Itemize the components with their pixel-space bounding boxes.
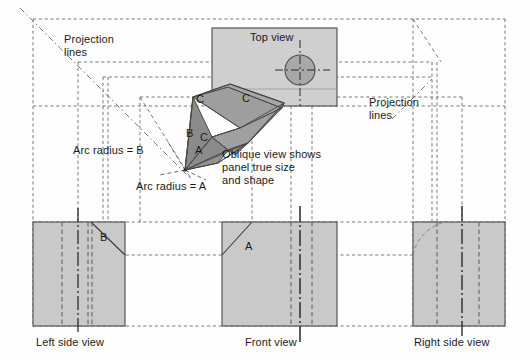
oblique-label-c-inner: C [200, 131, 208, 143]
front-view-group [222, 206, 337, 342]
left-side-view-panel [33, 222, 125, 326]
arc-radius-b-label: Arc radius = B [73, 144, 144, 157]
front-view-label: Front view [245, 336, 297, 349]
right-side-view-panel [413, 222, 505, 326]
top-view-label: Top view [250, 31, 294, 44]
arc-radius-a-label: Arc radius = A [136, 180, 206, 193]
projection-lines-label-right: Projection lines [369, 96, 419, 122]
mitre-line-left-branch [140, 97, 192, 180]
left-side-view-label: Left side view [36, 336, 104, 349]
left-side-view-label-b: B [100, 231, 107, 243]
right-side-view-group [413, 206, 505, 338]
oblique-label-a: A [195, 144, 202, 156]
right-side-view-label: Right side view [414, 336, 489, 349]
oblique-label-c-top: C [242, 92, 250, 104]
front-view-label-a: A [245, 240, 252, 252]
arc-radius-a-leader [185, 170, 206, 180]
mitre-line-right-upper [413, 19, 441, 62]
oblique-apex-point [183, 168, 186, 171]
oblique-note-label: Oblique view shows panel true size and s… [222, 148, 321, 187]
front-view-panel [222, 222, 337, 326]
oblique-label-b: B [186, 127, 193, 139]
projection-lines-label-left: Projection lines [64, 33, 114, 59]
technical-drawing-canvas: Projection lines Projection lines Top vi… [0, 0, 530, 360]
left-side-view-group [33, 208, 125, 334]
top-view-label-c: C [196, 93, 204, 105]
arc-radius-a-leader-2 [160, 170, 185, 175]
